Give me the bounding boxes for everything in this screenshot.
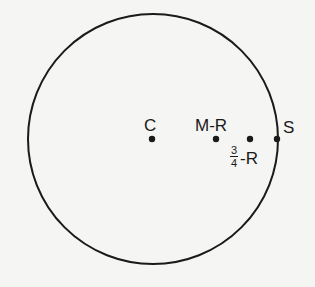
label-s: S	[283, 119, 294, 136]
diagram-svg	[0, 0, 315, 287]
label-m-r: M-R	[195, 117, 227, 134]
label-c: C	[144, 117, 156, 134]
label-three-quarter-r-suffix: -R	[240, 150, 258, 167]
point-m-r-dot	[213, 136, 219, 142]
point-s-dot	[274, 136, 280, 142]
label-three-quarter-fraction: 3 4	[230, 145, 238, 168]
fraction-denominator: 4	[231, 158, 237, 168]
point-three-quarter-r-dot	[247, 136, 253, 142]
point-c-dot	[149, 136, 155, 142]
diagram-canvas: C M-R 3 4 -R S	[0, 0, 315, 287]
fraction-numerator: 3	[231, 145, 237, 155]
